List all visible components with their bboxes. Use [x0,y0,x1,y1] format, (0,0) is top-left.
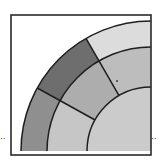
ring-sectors [21,21,151,151]
right-dotted-mark: ·· [151,134,157,144]
quarter-ring-diagram: ·· ·· [0,0,163,168]
left-dotted-mark: ·· [0,134,6,144]
center-dot-mark [116,80,118,82]
